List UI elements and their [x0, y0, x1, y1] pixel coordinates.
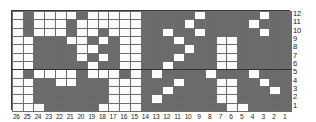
pattern-cell[interactable] — [98, 95, 109, 103]
pattern-cell[interactable] — [141, 53, 152, 61]
pattern-cell[interactable] — [163, 61, 174, 69]
pattern-cell[interactable] — [173, 70, 184, 78]
pattern-cell[interactable] — [130, 95, 141, 103]
pattern-cell[interactable] — [227, 36, 238, 44]
pattern-cell[interactable] — [280, 70, 291, 78]
pattern-cell[interactable] — [184, 20, 195, 28]
pattern-cell[interactable] — [248, 36, 259, 44]
pattern-cell[interactable] — [130, 53, 141, 61]
pattern-cell[interactable] — [120, 95, 131, 103]
pattern-cell[interactable] — [280, 12, 291, 20]
pattern-cell[interactable] — [77, 36, 88, 44]
pattern-cell[interactable] — [270, 86, 281, 94]
pattern-cell[interactable] — [141, 78, 152, 86]
pattern-cell[interactable] — [98, 20, 109, 28]
pattern-cell[interactable] — [34, 53, 45, 61]
pattern-cell[interactable] — [45, 53, 56, 61]
pattern-cell[interactable] — [152, 53, 163, 61]
pattern-cell[interactable] — [55, 70, 66, 78]
pattern-cell[interactable] — [152, 70, 163, 78]
pattern-cell[interactable] — [34, 12, 45, 20]
pattern-cell[interactable] — [184, 61, 195, 69]
pattern-cell[interactable] — [227, 20, 238, 28]
pattern-cell[interactable] — [120, 53, 131, 61]
pattern-cell[interactable] — [45, 86, 56, 94]
pattern-cell[interactable] — [205, 95, 216, 103]
pattern-cell[interactable] — [216, 45, 227, 53]
pattern-cell[interactable] — [23, 95, 34, 103]
pattern-cell[interactable] — [227, 28, 238, 36]
pattern-cell[interactable] — [238, 53, 249, 61]
pattern-cell[interactable] — [195, 36, 206, 44]
pattern-cell[interactable] — [173, 12, 184, 20]
pattern-cell[interactable] — [238, 45, 249, 53]
pattern-cell[interactable] — [88, 70, 99, 78]
pattern-cell[interactable] — [13, 53, 24, 61]
pattern-cell[interactable] — [205, 28, 216, 36]
pattern-cell[interactable] — [163, 95, 174, 103]
pattern-cell[interactable] — [34, 36, 45, 44]
pattern-cell[interactable] — [34, 86, 45, 94]
pattern-cell[interactable] — [195, 53, 206, 61]
pattern-cell[interactable] — [77, 86, 88, 94]
pattern-cell[interactable] — [77, 20, 88, 28]
pattern-cell[interactable] — [130, 86, 141, 94]
pattern-cell[interactable] — [270, 53, 281, 61]
pattern-cell[interactable] — [55, 95, 66, 103]
pattern-cell[interactable] — [205, 70, 216, 78]
pattern-cell[interactable] — [205, 61, 216, 69]
pattern-cell[interactable] — [195, 61, 206, 69]
pattern-cell[interactable] — [280, 28, 291, 36]
pattern-cell[interactable] — [270, 36, 281, 44]
pattern-cell[interactable] — [270, 61, 281, 69]
pattern-cell[interactable] — [98, 61, 109, 69]
pattern-cell[interactable] — [109, 70, 120, 78]
pattern-cell[interactable] — [23, 78, 34, 86]
pattern-cell[interactable] — [280, 95, 291, 103]
pattern-cell[interactable] — [77, 95, 88, 103]
pattern-cell[interactable] — [238, 36, 249, 44]
pattern-cell[interactable] — [77, 28, 88, 36]
pattern-cell[interactable] — [130, 45, 141, 53]
pattern-cell[interactable] — [13, 45, 24, 53]
pattern-cell[interactable] — [13, 36, 24, 44]
pattern-cell[interactable] — [109, 53, 120, 61]
pattern-cell[interactable] — [163, 12, 174, 20]
pattern-cell[interactable] — [88, 45, 99, 53]
pattern-cell[interactable] — [130, 28, 141, 36]
pattern-cell[interactable] — [238, 70, 249, 78]
pattern-cell[interactable] — [109, 78, 120, 86]
pattern-cell[interactable] — [205, 53, 216, 61]
pattern-cell[interactable] — [227, 86, 238, 94]
pattern-cell[interactable] — [88, 36, 99, 44]
pattern-cell[interactable] — [23, 20, 34, 28]
pattern-cell[interactable] — [248, 95, 259, 103]
pattern-cell[interactable] — [77, 78, 88, 86]
pattern-cell[interactable] — [259, 86, 270, 94]
pattern-cell[interactable] — [66, 78, 77, 86]
pattern-cell[interactable] — [55, 36, 66, 44]
pattern-cell[interactable] — [66, 86, 77, 94]
pattern-cell[interactable] — [13, 61, 24, 69]
pattern-cell[interactable] — [141, 36, 152, 44]
pattern-cell[interactable] — [130, 70, 141, 78]
pattern-cell[interactable] — [55, 28, 66, 36]
pattern-cell[interactable] — [152, 12, 163, 20]
pattern-cell[interactable] — [248, 86, 259, 94]
pattern-cell[interactable] — [173, 86, 184, 94]
pattern-cell[interactable] — [120, 78, 131, 86]
pattern-cell[interactable] — [163, 28, 174, 36]
pattern-cell[interactable] — [120, 61, 131, 69]
pattern-cell[interactable] — [248, 53, 259, 61]
pattern-cell[interactable] — [66, 36, 77, 44]
pattern-cell[interactable] — [227, 45, 238, 53]
pattern-cell[interactable] — [270, 70, 281, 78]
pattern-cell[interactable] — [130, 61, 141, 69]
pattern-cell[interactable] — [55, 78, 66, 86]
pattern-cell[interactable] — [98, 70, 109, 78]
pattern-cell[interactable] — [152, 95, 163, 103]
pattern-cell[interactable] — [77, 12, 88, 20]
pattern-cell[interactable] — [280, 53, 291, 61]
pattern-cell[interactable] — [173, 28, 184, 36]
pattern-cell[interactable] — [13, 12, 24, 20]
